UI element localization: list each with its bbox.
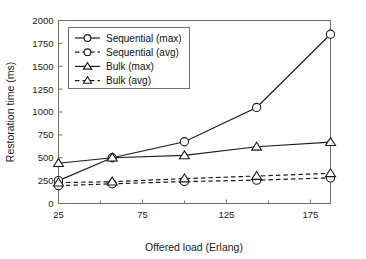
circle-marker-icon	[180, 138, 188, 146]
y-tick-label: 500	[38, 152, 54, 163]
y-tick-label: 0	[48, 198, 53, 209]
legend-item-label: Bulk (max)	[106, 61, 154, 72]
y-axis-title: Restoration time (ms)	[4, 62, 16, 162]
circle-marker-icon	[253, 103, 261, 111]
y-tick-label: 250	[38, 175, 54, 186]
triangle-marker-icon	[326, 138, 336, 146]
x-tick-label: 125	[218, 209, 234, 220]
y-tick-label: 2000	[32, 15, 53, 26]
triangle-marker-icon	[252, 171, 262, 179]
x-tick-label: 75	[137, 209, 148, 220]
x-tick-label: 25	[53, 209, 64, 220]
legend-item-label: Sequential (max)	[106, 33, 182, 44]
chart-figure: 025050075010001250150017502000 257512517…	[0, 0, 366, 259]
x-tick-label: 175	[302, 209, 318, 220]
legend-item-label: Sequential (avg)	[106, 47, 179, 58]
series-2	[54, 138, 336, 167]
series-3	[54, 169, 336, 186]
circle-marker-icon	[84, 35, 91, 42]
y-tick-label: 1000	[32, 106, 53, 117]
restoration-time-line-chart: 025050075010001250150017502000 257512517…	[0, 0, 366, 259]
x-axis-title: Offered load (Erlang)	[145, 241, 243, 253]
y-tick-label: 1250	[32, 84, 53, 95]
circle-marker-icon	[326, 30, 334, 38]
y-tick-label: 1500	[32, 61, 53, 72]
legend-item-label: Bulk (avg)	[106, 75, 151, 86]
circle-marker-icon	[84, 49, 91, 56]
x-axis: 2575125175	[53, 200, 318, 220]
triangle-marker-icon	[326, 169, 336, 177]
chart-legend: Sequential (max)Sequential (avg)Bulk (ma…	[69, 28, 190, 89]
y-tick-label: 1750	[32, 38, 53, 49]
y-tick-label: 750	[38, 129, 54, 140]
series-path	[59, 142, 331, 163]
